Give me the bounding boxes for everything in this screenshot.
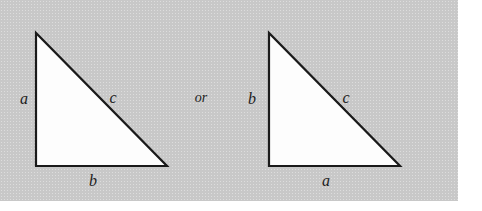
connector-or-label: or bbox=[195, 91, 207, 105]
right-triangle-shape bbox=[269, 33, 400, 166]
right-triangle-label-hypotenuse: c bbox=[342, 90, 349, 106]
figure-page: a c b or b c a bbox=[0, 0, 482, 211]
right-triangle-label-horizontal: a bbox=[322, 173, 330, 189]
left-triangle-label-horizontal: b bbox=[89, 173, 97, 189]
right-triangle-label-vertical: b bbox=[248, 91, 256, 107]
left-triangle-label-vertical: a bbox=[20, 91, 28, 107]
left-triangle-shape bbox=[36, 33, 167, 166]
left-triangle-label-hypotenuse: c bbox=[109, 90, 116, 106]
right-triangle-diagram bbox=[0, 0, 482, 211]
